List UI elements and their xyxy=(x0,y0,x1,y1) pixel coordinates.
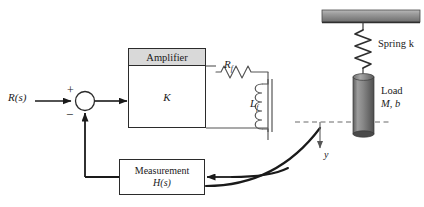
resistor-rf-subscript: f xyxy=(231,64,233,73)
spring-symbol xyxy=(355,30,371,68)
field-circuit-wire xyxy=(262,72,268,84)
amplifier-gain-label: K xyxy=(129,66,205,127)
summing-minus-sign: − xyxy=(66,108,73,122)
summing-junction xyxy=(76,92,95,111)
load-mass-body xyxy=(353,74,374,138)
inductor-lf-subscript: f xyxy=(256,103,258,112)
reference-input-label: R(s) xyxy=(8,92,26,104)
measurement-title: Measurement xyxy=(135,165,189,178)
inductor-core-bars xyxy=(268,79,272,132)
amplifier-title: Amplifier xyxy=(129,49,205,66)
ceiling-support-bar xyxy=(322,10,420,23)
resistor-rf-label: Rf xyxy=(224,59,233,73)
diagram-vector-layer xyxy=(0,0,424,207)
load-label-line2: M, b xyxy=(381,98,400,109)
displacement-label-y: y xyxy=(324,150,328,161)
spring-label: Spring k xyxy=(378,38,414,49)
load-label-line1: Load xyxy=(381,85,403,96)
feedback-line-to-summer xyxy=(85,113,119,177)
inductor-lf-label: Lf xyxy=(250,98,258,112)
summing-plus-sign: + xyxy=(67,84,74,97)
measurement-block: Measurement H(s) xyxy=(119,159,205,195)
control-system-diagram: Amplifier K Measurement H(s) R(s) + − Rf… xyxy=(0,0,424,207)
measurement-transfer-function: H(s) xyxy=(153,177,171,190)
amplifier-block: Amplifier K xyxy=(128,48,206,128)
resistor-rf-symbol-text: R xyxy=(224,58,231,70)
